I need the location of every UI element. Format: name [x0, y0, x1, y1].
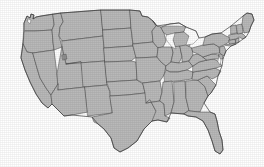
- state-tennessee: [164, 70, 193, 82]
- great-salt-lake: [62, 54, 67, 60]
- state-north-dakota: [101, 10, 131, 30]
- state-south-dakota: [103, 28, 133, 48]
- state-new-mexico: [85, 85, 112, 116]
- state-wyoming: [62, 36, 105, 64]
- state-kentucky: [166, 61, 193, 72]
- state-montana: [59, 10, 103, 41]
- state-iowa: [133, 42, 158, 58]
- state-oregon: [23, 30, 54, 53]
- state-arizona: [51, 84, 88, 116]
- land-layer: [21, 10, 254, 154]
- us-map-figure: [0, 0, 264, 167]
- state-vermont: [231, 25, 237, 34]
- united-states-map: [0, 0, 264, 167]
- state-florida: [184, 111, 223, 154]
- state-minnesota: [130, 10, 156, 44]
- state-nebraska: [104, 46, 136, 62]
- state-arkansas: [143, 81, 162, 103]
- state-kansas: [105, 61, 137, 82]
